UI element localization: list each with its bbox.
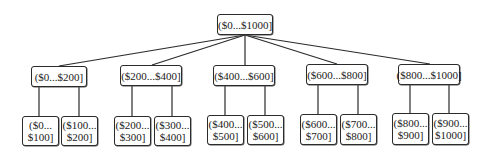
leaf-label-line1: ($800... bbox=[394, 117, 428, 129]
leaf-node-700-800: ($700...$800] bbox=[340, 114, 377, 145]
leaf-label-line1: ($300... bbox=[156, 119, 190, 131]
node-label: ($200...$400] bbox=[121, 70, 181, 82]
level1-node-0-200: ($0...$200] bbox=[31, 66, 87, 87]
leaf-node-100-200: ($100...$200] bbox=[61, 116, 98, 146]
leaf-label-line1: ($500... bbox=[249, 118, 283, 130]
leaf-label-line1: ($100... bbox=[63, 119, 97, 131]
leaf-label-line2: $800] bbox=[346, 130, 372, 142]
level1-node-200-400: ($200...$400] bbox=[120, 65, 182, 86]
level1-node-800-1000: ($800...$1000] bbox=[398, 64, 460, 85]
connector-line bbox=[245, 35, 430, 64]
connector-line bbox=[152, 35, 245, 65]
leaf-label-line2: $300] bbox=[120, 131, 146, 143]
root-label: ($0...$1000] bbox=[218, 19, 272, 31]
node-label: ($400...$600] bbox=[214, 70, 274, 82]
leaf-node-800-900: ($800...$900] bbox=[392, 113, 429, 145]
leaf-label-line1: ($200... bbox=[116, 119, 150, 131]
node-label: ($600...$800] bbox=[307, 69, 367, 81]
leaf-label-line2: $200] bbox=[67, 131, 93, 143]
leaf-label-line1: ($400... bbox=[209, 118, 243, 130]
leaf-label-line2: $400] bbox=[160, 131, 186, 143]
leaf-node-600-700: ($600...$700] bbox=[300, 114, 337, 145]
node-label: ($0...$200] bbox=[35, 71, 84, 83]
leaf-node-900-1000: ($900...$1000] bbox=[432, 113, 469, 145]
node-label: ($800...$1000] bbox=[396, 69, 461, 81]
leaf-label-line2: $600] bbox=[253, 130, 279, 142]
leaf-node-0-100: ($0...$100] bbox=[22, 116, 59, 146]
leaf-label-line1: ($600... bbox=[302, 118, 336, 130]
leaf-label-line1: ($0... bbox=[29, 119, 52, 131]
leaf-label-line1: ($700... bbox=[342, 118, 376, 130]
leaf-node-300-400: ($300...$400] bbox=[154, 116, 191, 146]
leaf-label-line2: $700] bbox=[306, 130, 332, 142]
connector-line bbox=[245, 35, 337, 64]
level1-node-600-800: ($600...$800] bbox=[306, 64, 368, 85]
leaf-label-line2: $500] bbox=[213, 130, 239, 142]
range-tree-diagram: ($0...$1000] ($0...$200] ($200...$400] (… bbox=[0, 0, 487, 160]
leaf-label-line2: $900] bbox=[398, 129, 424, 141]
connector-line bbox=[59, 35, 245, 66]
leaf-label-line2: $1000] bbox=[435, 129, 466, 141]
leaf-node-400-500: ($400...$500] bbox=[207, 115, 244, 145]
root-node: ($0...$1000] bbox=[217, 14, 273, 35]
level1-node-400-600: ($400...$600] bbox=[213, 65, 275, 86]
leaf-label-line1: ($900... bbox=[434, 117, 468, 129]
leaf-node-200-300: ($200...$300] bbox=[114, 116, 151, 146]
leaf-label-line2: $100] bbox=[28, 131, 54, 143]
leaf-node-500-600: ($500...$600] bbox=[247, 115, 284, 145]
